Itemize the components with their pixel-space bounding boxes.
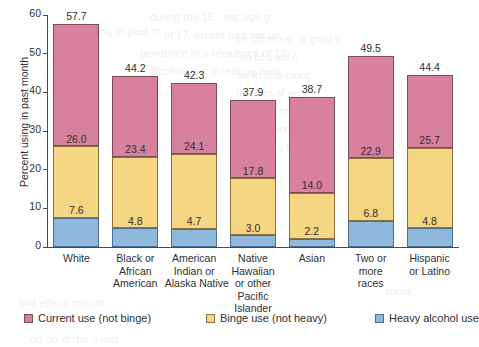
category-label-line: Alaska Native bbox=[165, 277, 224, 290]
category-label-line: Two or bbox=[341, 252, 400, 265]
category-label-line: Pacific bbox=[224, 290, 283, 303]
category-label-line: more bbox=[341, 265, 400, 278]
cumulative-heavy-label-0: 7.6 bbox=[53, 204, 99, 216]
cumulative-binge-label-3: 17.8 bbox=[230, 165, 276, 177]
category-label-0: White bbox=[47, 252, 106, 265]
cumulative-heavy-label-6: 4.8 bbox=[407, 215, 453, 227]
cumulative-heavy-label-5: 6.8 bbox=[348, 207, 394, 219]
category-label-line: Indian or bbox=[165, 265, 224, 278]
cumulative-heavy-label-3: 3.0 bbox=[230, 222, 276, 234]
segment-heavy-alcohol-use-3[interactable] bbox=[230, 235, 276, 247]
category-label-line: races bbox=[341, 277, 400, 290]
cumulative-heavy-label-2: 4.7 bbox=[171, 215, 217, 227]
y-tick-label: 0 bbox=[35, 239, 41, 251]
cumulative-binge-label-4: 14.0 bbox=[289, 179, 335, 191]
segment-current-use-0[interactable] bbox=[53, 24, 99, 147]
segment-heavy-alcohol-use-5[interactable] bbox=[348, 221, 394, 247]
bar-total-label-4: 38.7 bbox=[289, 83, 335, 95]
bar-1[interactable]: 44.223.44.8 bbox=[112, 76, 158, 247]
segment-heavy-alcohol-use-2[interactable] bbox=[171, 229, 217, 247]
bar-4[interactable]: 38.714.02.2 bbox=[289, 97, 335, 247]
bar-total-label-5: 49.5 bbox=[348, 42, 394, 54]
y-tick-label: 20 bbox=[29, 162, 41, 174]
legend-swatch-pink bbox=[24, 314, 33, 323]
legend-label: Heavy alcohol use bbox=[389, 312, 479, 324]
cumulative-binge-label-2: 24.1 bbox=[171, 140, 217, 152]
category-label-3: NativeHawaiianor otherPacificIslander bbox=[224, 252, 283, 315]
cumulative-heavy-label-1: 4.8 bbox=[112, 215, 158, 227]
y-tick-label: 40 bbox=[29, 84, 41, 96]
category-label-line: American bbox=[165, 252, 224, 265]
category-label-line: Native bbox=[224, 252, 283, 265]
y-tick-label: 10 bbox=[29, 200, 41, 212]
category-label-line: Black or bbox=[106, 252, 165, 265]
bar-5[interactable]: 49.522.96.8 bbox=[348, 56, 394, 247]
category-label-5: Two ormoreraces bbox=[341, 252, 400, 290]
bar-3[interactable]: 37.917.83.0 bbox=[230, 100, 276, 247]
category-label-line: Asian bbox=[282, 252, 341, 265]
bar-total-label-6: 44.4 bbox=[407, 61, 453, 73]
legend-label: Binge use (not heavy) bbox=[220, 312, 327, 324]
legend-swatch-blue bbox=[375, 314, 384, 323]
cumulative-binge-label-5: 22.9 bbox=[348, 145, 394, 157]
segment-heavy-alcohol-use-1[interactable] bbox=[112, 228, 158, 247]
category-label-1: Black orAfricanAmerican bbox=[106, 252, 165, 290]
category-label-line: or other bbox=[224, 277, 283, 290]
cumulative-binge-label-1: 23.4 bbox=[112, 143, 158, 155]
cumulative-binge-label-6: 25.7 bbox=[407, 134, 453, 146]
bar-total-label-0: 57.7 bbox=[53, 10, 99, 22]
bar-total-label-3: 37.9 bbox=[230, 86, 276, 98]
category-label-2: AmericanIndian orAlaska Native bbox=[165, 252, 224, 290]
legend-swatch-yellow bbox=[206, 314, 215, 323]
y-axis-title: Percent using in past month bbox=[18, 12, 30, 232]
cumulative-heavy-label-4: 2.2 bbox=[289, 225, 335, 237]
plot-area: 57.726.07.644.223.44.842.324.14.737.917.… bbox=[47, 15, 459, 247]
bar-2[interactable]: 42.324.14.7 bbox=[171, 83, 217, 247]
chart-legend: Current use (not binge)Binge use (not he… bbox=[24, 312, 454, 328]
category-label-line: American bbox=[106, 277, 165, 290]
bar-6[interactable]: 44.425.74.8 bbox=[407, 75, 453, 247]
category-label-line: Hispanic bbox=[400, 252, 459, 265]
bar-total-label-1: 44.2 bbox=[112, 62, 158, 74]
bar-total-label-2: 42.3 bbox=[171, 69, 217, 81]
y-tick-label: 60 bbox=[29, 7, 41, 19]
segment-heavy-alcohol-use-0[interactable] bbox=[53, 218, 99, 247]
y-tick-label: 30 bbox=[29, 123, 41, 135]
category-label-4: Asian bbox=[282, 252, 341, 265]
category-label-line: Hawaiian bbox=[224, 265, 283, 278]
category-label-line: White bbox=[47, 252, 106, 265]
category-label-line: or Latino bbox=[400, 265, 459, 278]
category-label-line: African bbox=[106, 265, 165, 278]
legend-label: Current use (not binge) bbox=[38, 312, 151, 324]
bar-0[interactable]: 57.726.07.6 bbox=[53, 24, 99, 247]
cumulative-binge-label-0: 26.0 bbox=[53, 133, 99, 145]
segment-heavy-alcohol-use-4[interactable] bbox=[289, 239, 335, 248]
y-tick-label: 50 bbox=[29, 46, 41, 58]
segment-current-use-5[interactable] bbox=[348, 56, 394, 159]
segment-heavy-alcohol-use-6[interactable] bbox=[407, 228, 453, 247]
category-label-6: Hispanicor Latino bbox=[400, 252, 459, 277]
